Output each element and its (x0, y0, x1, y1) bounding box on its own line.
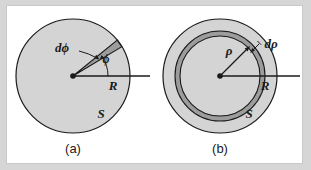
label-rho: ρ (225, 43, 233, 58)
figure-svg: dϕ ϕ R S (a) (0, 0, 311, 170)
label-R-b: R (260, 78, 270, 93)
label-S-b: S (245, 106, 252, 121)
label-dphi: dϕ (55, 40, 70, 55)
diagram-a: dϕ ϕ R S (a) (16, 19, 150, 156)
center-point-b (217, 73, 223, 79)
label-phi: ϕ (103, 52, 110, 66)
label-drho: dρ (264, 36, 278, 51)
label-S-a: S (97, 106, 104, 121)
label-R-a: R (108, 78, 118, 93)
figure-container: dϕ ϕ R S (a) (0, 0, 311, 170)
caption-b: (b) (212, 141, 228, 156)
diagram-b: ρ dρ R S (b) (163, 19, 300, 156)
caption-a: (a) (65, 141, 81, 156)
center-point-a (70, 73, 76, 79)
